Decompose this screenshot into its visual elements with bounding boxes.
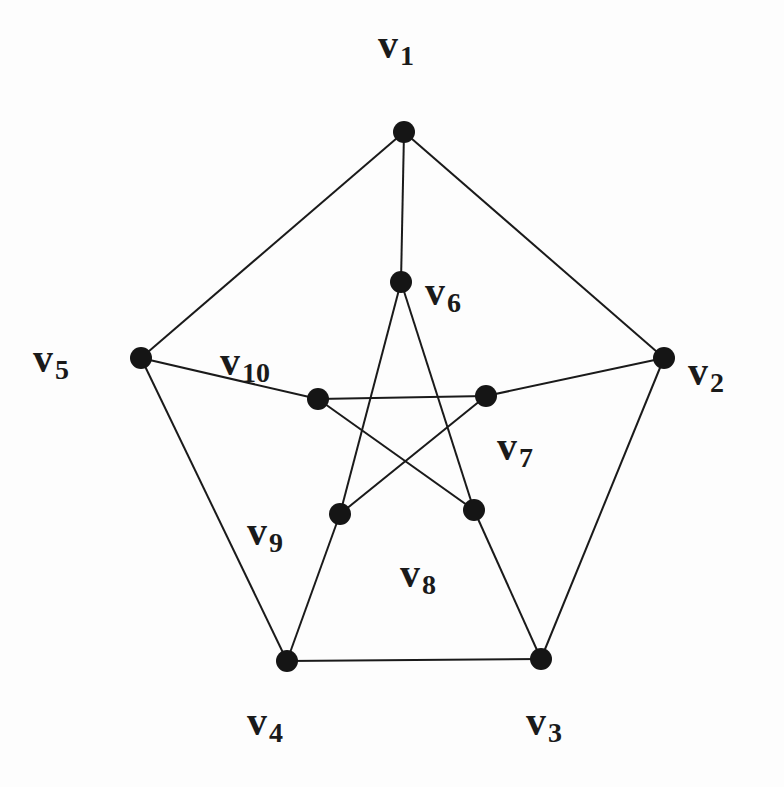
petersen-graph-diagram: v1v2v3v4v5v6v7v8v9v10 — [0, 0, 784, 787]
vertex-v6 — [390, 271, 412, 293]
label-v1: v1 — [378, 22, 414, 71]
edge-v1-v6 — [401, 132, 404, 282]
vertex-v9 — [329, 503, 351, 525]
edge-v10-v7 — [318, 396, 486, 399]
edge-v2-v3 — [541, 358, 664, 659]
vertex-v3 — [530, 648, 552, 670]
labels-group: v1v2v3v4v5v6v7v8v9v10 — [33, 22, 724, 748]
vertex-v8 — [463, 499, 485, 521]
label-v4: v4 — [247, 699, 283, 748]
label-v10: v10 — [220, 339, 270, 388]
edge-v5-v1 — [141, 132, 404, 358]
edge-v7-v9 — [340, 396, 486, 514]
vertex-v7 — [475, 385, 497, 407]
label-v9: v9 — [247, 509, 283, 558]
edge-v1-v2 — [404, 132, 664, 358]
edge-v8-v10 — [318, 399, 474, 510]
edge-v3-v8 — [474, 510, 541, 659]
vertex-v4 — [276, 650, 298, 672]
label-v8: v8 — [400, 551, 436, 600]
label-v2: v2 — [688, 349, 724, 398]
edge-v4-v9 — [287, 514, 340, 661]
label-v5: v5 — [33, 336, 69, 385]
graph-svg: v1v2v3v4v5v6v7v8v9v10 — [0, 0, 784, 787]
edge-v2-v7 — [486, 358, 664, 396]
label-v6: v6 — [425, 269, 461, 318]
vertex-v2 — [653, 347, 675, 369]
label-v3: v3 — [526, 699, 562, 748]
vertex-v5 — [130, 347, 152, 369]
vertex-v1 — [393, 121, 415, 143]
vertex-v10 — [307, 388, 329, 410]
label-v7: v7 — [497, 424, 533, 473]
edge-v3-v4 — [287, 659, 541, 661]
